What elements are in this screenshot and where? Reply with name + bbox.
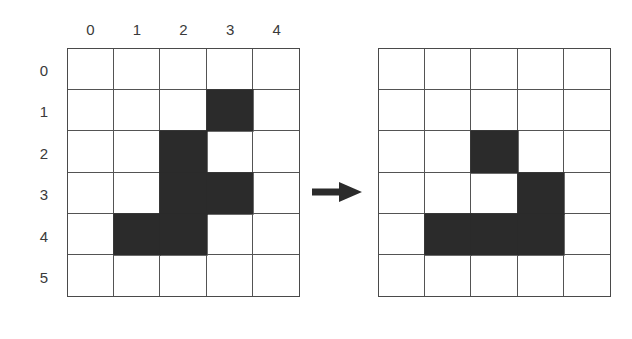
grid-cell-before-r1-c4[interactable] — [253, 90, 299, 131]
row-label-3: 3 — [32, 187, 56, 199]
grid-cell-before-r3-c0[interactable] — [68, 173, 114, 214]
grid-cell-before-r3-c4[interactable] — [253, 173, 299, 214]
grid-cell-after-r2-c3[interactable] — [518, 131, 564, 172]
grid-cell-after-r0-c4[interactable] — [564, 49, 610, 90]
grid-cell-after-r4-c1[interactable] — [425, 214, 471, 255]
grid-cell-before-r1-c1[interactable] — [114, 90, 160, 131]
grid-cell-after-r1-c3[interactable] — [518, 90, 564, 131]
grid-cell-before-r1-c0[interactable] — [68, 90, 114, 131]
grid-cell-after-r2-c0[interactable] — [379, 131, 425, 172]
grid-cell-after-r0-c2[interactable] — [471, 49, 517, 90]
right-arrow-icon — [311, 181, 363, 203]
grid-cell-before-r5-c0[interactable] — [68, 255, 114, 296]
grid-cell-before-r1-c2[interactable] — [160, 90, 206, 131]
figure-stage: 0 1 2 3 4 0 1 2 3 4 5 — [0, 0, 632, 339]
grid-cell-after-r3-c4[interactable] — [564, 173, 610, 214]
grid-cell-after-r0-c1[interactable] — [425, 49, 471, 90]
grid-cell-after-r2-c4[interactable] — [564, 131, 610, 172]
row-label-4: 4 — [32, 229, 56, 241]
grid-cell-before-r0-c3[interactable] — [207, 49, 253, 90]
grid-cell-after-r3-c2[interactable] — [471, 173, 517, 214]
grid-cell-before-r2-c0[interactable] — [68, 131, 114, 172]
grid-before-cells — [68, 49, 299, 296]
grid-cell-before-r2-c1[interactable] — [114, 131, 160, 172]
grid-cell-before-r5-c4[interactable] — [253, 255, 299, 296]
grid-cell-before-r2-c2[interactable] — [160, 131, 206, 172]
grid-cell-before-r2-c3[interactable] — [207, 131, 253, 172]
column-label-3: 3 — [207, 22, 254, 37]
row-label-5: 5 — [32, 270, 56, 282]
grid-cell-before-r0-c1[interactable] — [114, 49, 160, 90]
column-label-1: 1 — [114, 22, 161, 37]
row-label-2: 2 — [32, 146, 56, 158]
grid-cell-before-r4-c2[interactable] — [160, 214, 206, 255]
grid-after[interactable] — [378, 48, 611, 297]
grid-before[interactable] — [67, 48, 300, 297]
grid-cell-after-r3-c3[interactable] — [518, 173, 564, 214]
column-label-4: 4 — [253, 22, 300, 37]
grid-cell-before-r5-c2[interactable] — [160, 255, 206, 296]
grid-cell-after-r5-c4[interactable] — [564, 255, 610, 296]
grid-cell-after-r5-c0[interactable] — [379, 255, 425, 296]
column-label-2: 2 — [160, 22, 207, 37]
grid-cell-before-r5-c3[interactable] — [207, 255, 253, 296]
grid-cell-after-r0-c0[interactable] — [379, 49, 425, 90]
grid-cell-after-r3-c0[interactable] — [379, 173, 425, 214]
column-label-0: 0 — [67, 22, 114, 37]
row-label-1: 1 — [32, 104, 56, 116]
grid-cell-after-r2-c1[interactable] — [425, 131, 471, 172]
row-label-0: 0 — [32, 63, 56, 75]
grid-cell-after-r5-c2[interactable] — [471, 255, 517, 296]
grid-cell-after-r1-c2[interactable] — [471, 90, 517, 131]
grid-cell-before-r0-c2[interactable] — [160, 49, 206, 90]
grid-cell-after-r2-c2[interactable] — [471, 131, 517, 172]
grid-cell-after-r0-c3[interactable] — [518, 49, 564, 90]
grid-cell-after-r4-c0[interactable] — [379, 214, 425, 255]
grid-cell-before-r3-c2[interactable] — [160, 173, 206, 214]
grid-after-cells — [379, 49, 610, 296]
grid-cell-after-r1-c4[interactable] — [564, 90, 610, 131]
grid-cell-before-r1-c3[interactable] — [207, 90, 253, 131]
grid-cell-before-r4-c4[interactable] — [253, 214, 299, 255]
grid-cell-before-r3-c3[interactable] — [207, 173, 253, 214]
grid-cell-after-r5-c3[interactable] — [518, 255, 564, 296]
grid-cell-before-r0-c0[interactable] — [68, 49, 114, 90]
grid-cell-before-r4-c0[interactable] — [68, 214, 114, 255]
grid-cell-after-r1-c1[interactable] — [425, 90, 471, 131]
grid-cell-before-r4-c1[interactable] — [114, 214, 160, 255]
grid-cell-before-r4-c3[interactable] — [207, 214, 253, 255]
grid-cell-after-r3-c1[interactable] — [425, 173, 471, 214]
grid-cell-after-r4-c4[interactable] — [564, 214, 610, 255]
grid-cell-after-r1-c0[interactable] — [379, 90, 425, 131]
grid-cell-after-r5-c1[interactable] — [425, 255, 471, 296]
grid-cell-before-r5-c1[interactable] — [114, 255, 160, 296]
grid-cell-before-r0-c4[interactable] — [253, 49, 299, 90]
grid-cell-before-r3-c1[interactable] — [114, 173, 160, 214]
grid-cell-before-r2-c4[interactable] — [253, 131, 299, 172]
grid-cell-after-r4-c2[interactable] — [471, 214, 517, 255]
grid-cell-after-r4-c3[interactable] — [518, 214, 564, 255]
